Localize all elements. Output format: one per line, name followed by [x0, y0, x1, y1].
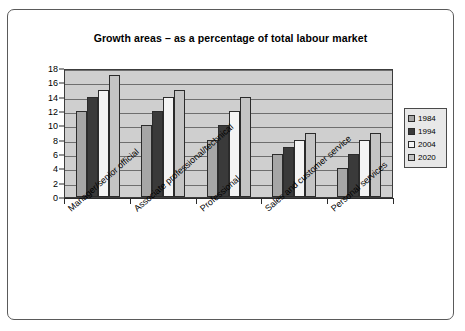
- y-axis-tick-label: 6: [53, 150, 58, 160]
- legend-item-2020[interactable]: 2020: [408, 151, 443, 164]
- y-axis-tick-label: 16: [48, 78, 58, 88]
- legend-label: 2004: [418, 141, 436, 149]
- legend-swatch-icon: [408, 128, 415, 135]
- y-axis-tick-label: 12: [48, 107, 58, 117]
- y-axis-tick-label: 18: [48, 64, 58, 74]
- chart-frame: Growth areas – as a percentage of total …: [7, 9, 454, 320]
- x-axis-tick-mark: [393, 198, 394, 204]
- bar-1984-1: [76, 111, 87, 197]
- chart-title: Growth areas – as a percentage of total …: [8, 32, 453, 44]
- bar-1984-2: [141, 125, 152, 197]
- legend-swatch-icon: [408, 141, 415, 148]
- y-axis: 024681012141618: [38, 62, 62, 206]
- bar-2020-3: [240, 97, 251, 197]
- x-axis-tick-mark: [196, 198, 197, 204]
- y-axis-tick-label: 4: [53, 164, 58, 174]
- y-axis-tick-label: 0: [53, 193, 58, 203]
- y-axis-tick-label: 14: [48, 93, 58, 103]
- legend-item-1994[interactable]: 1994: [408, 125, 443, 138]
- legend-item-1984[interactable]: 1984: [408, 112, 443, 125]
- x-axis-tick-mark: [327, 198, 328, 204]
- x-axis-tick-mark: [261, 198, 262, 204]
- y-axis-tick-label: 2: [53, 179, 58, 189]
- legend-label: 1984: [418, 115, 436, 123]
- y-axis-tick-label: 10: [48, 121, 58, 131]
- legend: 1984199420042020: [404, 108, 447, 168]
- legend-item-2004[interactable]: 2004: [408, 138, 443, 151]
- x-axis-tick-mark: [130, 198, 131, 204]
- legend-label: 1994: [418, 128, 436, 136]
- y-axis-tick-label: 8: [53, 136, 58, 146]
- legend-swatch-icon: [408, 154, 415, 161]
- legend-label: 2020: [418, 154, 436, 162]
- x-axis-tick-mark: [64, 198, 65, 204]
- legend-swatch-icon: [408, 115, 415, 122]
